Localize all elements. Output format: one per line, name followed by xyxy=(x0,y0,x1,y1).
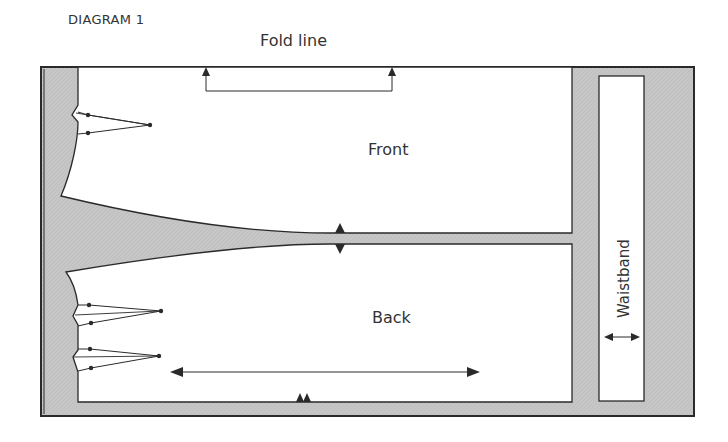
front-label: Front xyxy=(368,140,408,159)
waistband-label: Waistband xyxy=(615,239,633,318)
waistband-piece xyxy=(599,76,644,401)
fold-line-label: Fold line xyxy=(260,31,327,50)
back-label: Back xyxy=(372,308,412,327)
back-piece xyxy=(66,244,572,402)
front-piece xyxy=(61,67,572,233)
pattern-layout-diagram: Fold line Front Back Waistband xyxy=(0,0,728,442)
